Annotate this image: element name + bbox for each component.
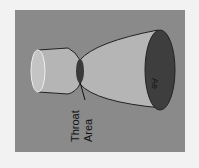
nozzle-diagram — [0, 0, 199, 168]
throat-label: Throat — [70, 110, 81, 142]
exit-area-label: Ae — [149, 78, 160, 89]
area-label: Area — [83, 119, 94, 142]
exit-area — [145, 30, 175, 110]
inlet-face — [31, 50, 45, 92]
throat-area — [76, 59, 84, 83]
